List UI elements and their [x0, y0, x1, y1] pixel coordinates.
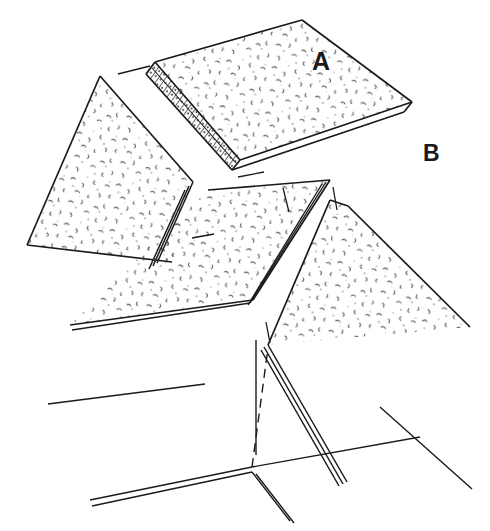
figure-canvas: A B	[0, 0, 490, 531]
callout-label-a: A	[312, 49, 330, 74]
callout-label-b: B	[423, 142, 440, 165]
technical-line-drawing	[0, 0, 490, 531]
